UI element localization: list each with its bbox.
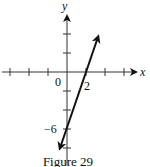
origin-label: 0 (55, 75, 61, 89)
x-axis-label: x (139, 65, 146, 79)
figure-caption: Figure 29 (0, 154, 136, 167)
graph-line (60, 37, 98, 148)
x-intercept-label: 2 (84, 79, 90, 93)
coordinate-plane: y x 0 2 −6 (0, 0, 150, 167)
x-axis (2, 68, 136, 76)
y-axis-label: y (61, 0, 68, 13)
y-intercept-label: −6 (44, 122, 57, 136)
y-axis (63, 16, 71, 165)
